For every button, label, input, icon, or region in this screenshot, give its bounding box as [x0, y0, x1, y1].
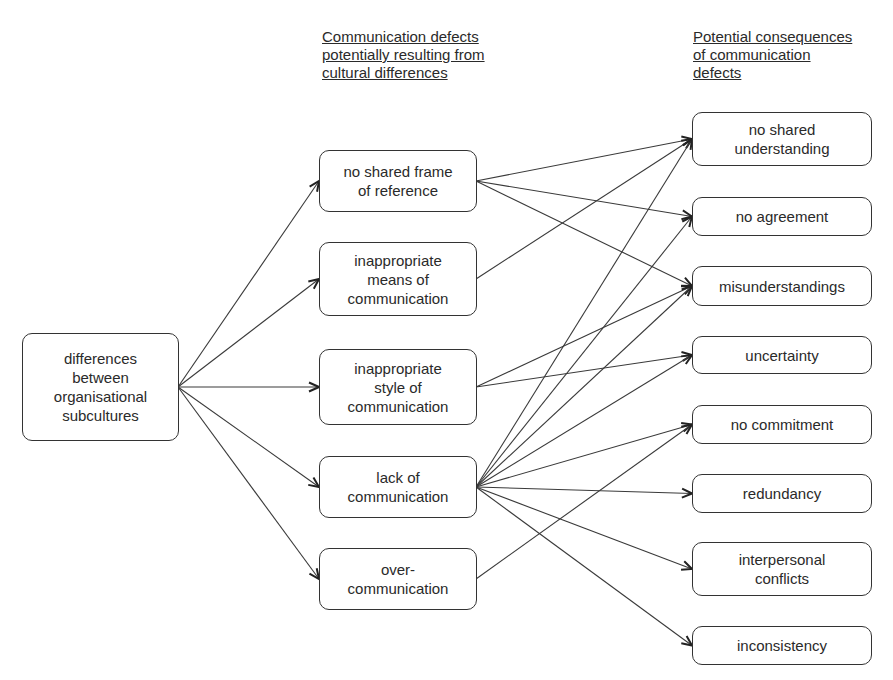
edge-lack-of-communication-to-misunderstandings [476, 286, 692, 487]
node-no-shared-frame-of-reference: no shared frame of reference [319, 150, 477, 212]
edge-over-communication-to-no-commitment [476, 425, 692, 580]
edge-differences-to-lack-of-communication [178, 387, 319, 487]
edge-no-shared-frame-to-misunderstandings [476, 181, 692, 286]
node-interpersonal-conflicts: interpersonal conflicts [692, 542, 872, 596]
node-no-commitment: no commitment [692, 405, 872, 444]
edge-lack-of-communication-to-uncertainty [476, 355, 692, 487]
node-no-shared-understanding: no shared understanding [692, 112, 872, 166]
node-inappropriate-means-of-communication: inappropriate means of communication [319, 242, 477, 316]
node-inappropriate-style-of-communication: inappropriate style of communication [319, 349, 477, 425]
edge-lack-of-communication-to-redundancy [476, 487, 692, 494]
node-lack-of-communication: lack of communication [319, 456, 477, 518]
edge-lack-of-communication-to-interpersonal-conflicts [476, 487, 692, 569]
edge-differences-to-inappropriate-means [178, 279, 319, 387]
heading-communication-defects: Communication defects potentially result… [322, 28, 485, 82]
edge-differences-to-no-shared-frame [178, 181, 319, 387]
node-over-communication: over- communication [319, 548, 477, 610]
edge-lack-of-communication-to-no-shared-understanding [476, 139, 692, 487]
node-misunderstandings: misunderstandings [692, 266, 872, 306]
edge-differences-to-over-communication [178, 387, 319, 579]
edge-no-shared-frame-to-no-agreement [476, 181, 692, 217]
heading-potential-consequences: Potential consequences of communication … [693, 28, 852, 82]
node-inconsistency: inconsistency [692, 626, 872, 665]
node-no-agreement: no agreement [692, 197, 872, 236]
node-uncertainty: uncertainty [692, 336, 872, 374]
edge-lack-of-communication-to-inconsistency [476, 487, 692, 646]
edge-inappropriate-style-to-misunderstandings [476, 286, 692, 387]
edge-inappropriate-style-to-uncertainty [476, 355, 692, 387]
edge-lack-of-communication-to-no-agreement [476, 217, 692, 488]
node-redundancy: redundancy [692, 474, 872, 513]
node-differences-between-subcultures: differences between organisational subcu… [22, 333, 179, 441]
